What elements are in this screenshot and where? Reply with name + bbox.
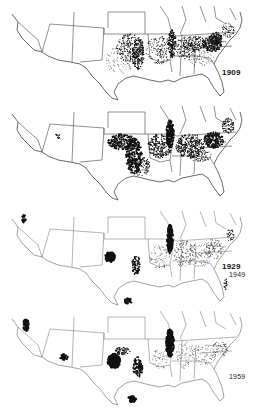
state-border bbox=[180, 106, 186, 134]
state-border bbox=[196, 261, 214, 269]
us-south-map bbox=[0, 305, 254, 418]
state-border bbox=[72, 317, 74, 367]
state-border bbox=[200, 351, 232, 353]
state-border bbox=[180, 339, 182, 381]
state-border bbox=[108, 317, 145, 339]
us-south-map bbox=[0, 0, 254, 105]
state-border bbox=[104, 233, 148, 239]
state-border bbox=[72, 12, 74, 62]
state-border bbox=[180, 311, 186, 339]
state-border bbox=[42, 124, 50, 152]
state-border bbox=[108, 12, 145, 34]
state-border bbox=[200, 6, 206, 22]
state-border bbox=[50, 329, 104, 333]
state-border bbox=[230, 313, 236, 325]
us-south-map bbox=[0, 205, 254, 310]
year-label: 1949 bbox=[229, 271, 245, 278]
state-border bbox=[148, 32, 236, 36]
state-border bbox=[72, 112, 74, 162]
production-dots bbox=[23, 319, 228, 403]
state-border bbox=[200, 211, 206, 227]
state-border bbox=[104, 28, 148, 34]
state-border bbox=[230, 213, 236, 225]
state-border bbox=[230, 8, 236, 20]
coastline bbox=[12, 317, 242, 405]
state-border bbox=[194, 345, 196, 379]
state-border bbox=[50, 229, 104, 233]
state-border bbox=[108, 112, 145, 134]
state-border bbox=[180, 239, 182, 281]
state-border bbox=[148, 237, 236, 241]
state-border bbox=[80, 333, 104, 367]
year-label: 1909 bbox=[222, 68, 241, 77]
state-border bbox=[180, 211, 186, 239]
state-border bbox=[42, 329, 50, 357]
state-border bbox=[194, 245, 196, 279]
coastline bbox=[12, 12, 242, 100]
production-dots bbox=[21, 214, 234, 304]
state-border bbox=[200, 311, 206, 327]
state-border bbox=[214, 6, 226, 24]
map-panel-1949: 1949 bbox=[0, 205, 254, 310]
year-label: 1959 bbox=[229, 373, 245, 380]
state-border bbox=[206, 345, 226, 347]
state-border bbox=[50, 124, 104, 128]
state-border bbox=[42, 229, 50, 257]
map-panel-1959: 1959 bbox=[0, 305, 254, 418]
state-border bbox=[108, 217, 145, 239]
state-border bbox=[104, 333, 148, 339]
state-border bbox=[80, 28, 104, 62]
state-border bbox=[180, 6, 186, 34]
state-border bbox=[80, 233, 104, 267]
state-border bbox=[214, 211, 226, 229]
state-border bbox=[148, 337, 236, 341]
state-border bbox=[80, 128, 104, 162]
state-border bbox=[230, 108, 236, 120]
state-border bbox=[214, 311, 226, 329]
state-border bbox=[50, 24, 104, 28]
state-border bbox=[200, 106, 206, 122]
state-border bbox=[160, 6, 172, 34]
state-border bbox=[42, 24, 50, 52]
state-border bbox=[104, 128, 148, 134]
state-border bbox=[196, 56, 214, 64]
state-border bbox=[72, 217, 74, 267]
us-south-map bbox=[0, 100, 254, 205]
map-panel-1909: 1909 bbox=[0, 0, 254, 105]
map-panel-1929: 1929 bbox=[0, 100, 254, 205]
